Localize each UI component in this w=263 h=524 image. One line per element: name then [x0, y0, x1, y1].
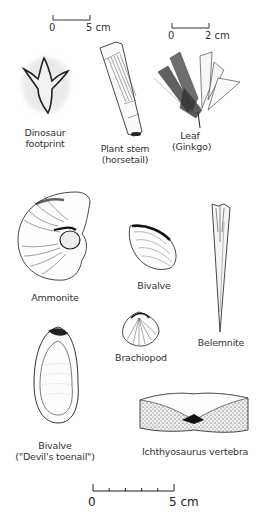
label-dinosaur-footprint: Dinosaur footprint: [22, 127, 68, 149]
belemnite-illustration: [206, 202, 234, 334]
plant-stem-illustration: [98, 40, 144, 138]
label-ginkgo-leaf: Leaf (Ginkgo): [172, 130, 208, 152]
scale-bar-2cm-top: [171, 22, 211, 30]
label-belemnite: Belemnite: [196, 337, 246, 348]
label-devils-toenail: Bivalve ("Devil's toenail"): [14, 440, 96, 462]
ammonite-illustration: [14, 190, 94, 282]
label-brachiopod: Brachiopod: [112, 352, 170, 363]
bivalve-illustration: [126, 222, 180, 272]
ichthyosaurus-vertebra-illustration: [138, 390, 250, 438]
brachiopod-illustration: [119, 310, 161, 348]
scale-top-left-start: 0: [49, 22, 55, 33]
devils-toenail-illustration: [30, 325, 82, 425]
scale-top-left-end: 5 cm: [86, 22, 111, 33]
ginkgo-leaf-illustration: [152, 48, 244, 128]
scale-top-right-start: 0: [168, 30, 174, 41]
label-bivalve: Bivalve: [134, 280, 174, 291]
label-ichthyosaurus-vertebra: Ichthyosaurus vertebra: [142, 446, 248, 457]
scale-bar-5cm-bottom: [92, 483, 176, 493]
label-plant-stem: Plant stem (horsetail): [98, 143, 152, 165]
scale-top-right-end: 2 cm: [205, 30, 230, 41]
scale-bottom-end: 5 cm: [169, 495, 199, 509]
dinosaur-footprint-illustration: [18, 55, 74, 120]
scale-bottom-start: 0: [88, 495, 96, 509]
label-ammonite: Ammonite: [30, 292, 80, 303]
scale-bar-5cm-top: [52, 14, 92, 22]
